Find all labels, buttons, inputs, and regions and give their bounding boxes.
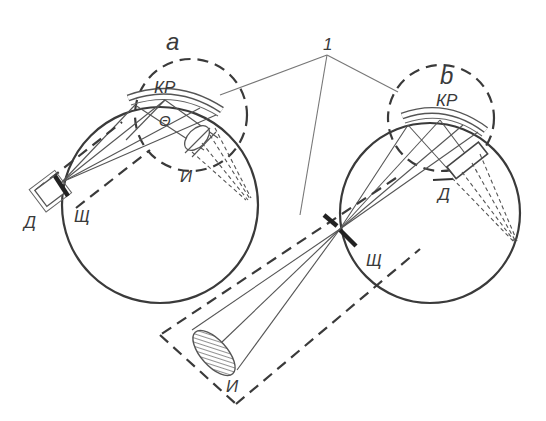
- optical-diagram: a КР Θ И Д Щ 1 b КР: [0, 0, 546, 421]
- panel-a-label: a: [166, 28, 179, 55]
- eye-a-globe: [62, 107, 258, 303]
- illuminator-b-source: [186, 323, 243, 382]
- module-a-dashed-circle: [135, 59, 247, 171]
- panel-a: a КР Θ И Д Щ: [22, 28, 258, 303]
- illuminator-b-channel: И Щ: [160, 178, 420, 404]
- panel-b-label: b: [440, 62, 453, 89]
- illuminator-b-label: И: [226, 377, 239, 396]
- detector-b-label: Д: [436, 185, 450, 204]
- contact-lens-b-label: КР: [436, 91, 458, 110]
- slit-b-label: Щ: [366, 251, 382, 270]
- contact-lens-a-label: КР: [154, 78, 176, 97]
- detector-a-label: Д: [22, 213, 36, 232]
- slit-b-upper: [324, 215, 337, 226]
- detector-b: [447, 142, 488, 178]
- slit-a-label: Щ: [74, 207, 90, 226]
- angle-label: Θ: [159, 112, 171, 129]
- callout-1-label: 1: [323, 35, 332, 54]
- illuminator-a-label: И: [180, 167, 193, 186]
